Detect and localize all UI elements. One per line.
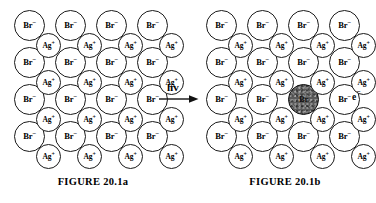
- ion-symbol: Br: [297, 132, 306, 141]
- ion-symbol: Br: [146, 95, 155, 104]
- ion-symbol: Ag: [358, 79, 367, 87]
- figure-caption-a: FIGURE 20.1a: [8, 176, 178, 187]
- ion-symbol: Ag: [317, 153, 326, 161]
- silver-ion: Ag+: [310, 107, 335, 132]
- ion-symbol: Br: [297, 58, 306, 67]
- ion-symbol: Ag: [276, 116, 285, 124]
- ion-symbol: Ag: [276, 79, 285, 87]
- ion-symbol: Br: [64, 58, 73, 67]
- ejected-electron-label: e−: [352, 92, 361, 102]
- ion-symbol: Ag: [43, 42, 52, 50]
- ion-symbol: Ag: [43, 116, 52, 124]
- ion-symbol: Br: [256, 132, 265, 141]
- silver-ion: Ag+: [228, 33, 253, 58]
- silver-ion: Ag+: [36, 33, 61, 58]
- figure-caption-b: FIGURE 20.1b: [200, 176, 370, 187]
- ion-symbol: Br: [297, 21, 306, 30]
- lattice-panel-b: Br−Br−Br−Br−Br−Br−Br−Br−Br−Br−BrBr−Br−Br…: [200, 0, 370, 168]
- silver-ion: Ag+: [118, 107, 143, 132]
- silver-ion: Ag+: [36, 107, 61, 132]
- silver-ion: Ag+: [269, 70, 294, 95]
- silver-ion: Ag+: [228, 107, 253, 132]
- silver-ion: Ag+: [77, 144, 102, 169]
- ion-symbol: Ag: [43, 79, 52, 87]
- silver-ion: Ag+: [36, 144, 61, 169]
- silver-ion: Ag+: [77, 70, 102, 95]
- reaction-arrow-icon: [159, 94, 199, 104]
- silver-ion: Ag+: [351, 33, 376, 58]
- ion-symbol: Ag: [358, 42, 367, 50]
- silver-ion: Ag+: [269, 144, 294, 169]
- ion-symbol: Br: [64, 132, 73, 141]
- ion-symbol: Br: [256, 95, 265, 104]
- ion-symbol: Ag: [317, 42, 326, 50]
- ion-symbol: Br: [215, 95, 224, 104]
- ion-symbol: Ag: [84, 79, 93, 87]
- silver-ion: Ag+: [77, 33, 102, 58]
- silver-ion: Ag+: [77, 107, 102, 132]
- silver-ion: Ag+: [118, 33, 143, 58]
- ion-symbol: Ag: [84, 116, 93, 124]
- ion-symbol: Br: [338, 58, 347, 67]
- ion-symbol: Ag: [358, 116, 367, 124]
- silver-ion: Ag+: [351, 107, 376, 132]
- ion-symbol: Br: [105, 95, 114, 104]
- silver-ion: Ag+: [269, 33, 294, 58]
- ion-symbol: Ag: [125, 42, 134, 50]
- ion-symbol: Br: [146, 21, 155, 30]
- ion-symbol: Ag: [317, 79, 326, 87]
- ion-symbol: Ag: [125, 116, 134, 124]
- silver-ion: Ag+: [36, 70, 61, 95]
- ion-symbol: Br: [64, 21, 73, 30]
- ion-symbol: Br: [146, 58, 155, 67]
- ion-symbol: Br: [23, 21, 32, 30]
- ion-symbol: Ag: [317, 116, 326, 124]
- silver-ion: Ag+: [159, 144, 184, 169]
- ion-symbol: Ag: [235, 153, 244, 161]
- ion-symbol: Ag: [276, 42, 285, 50]
- ion-symbol: Br: [105, 21, 114, 30]
- ion-symbol: Br: [256, 21, 265, 30]
- silver-ion: Ag+: [118, 144, 143, 169]
- ion-symbol: Br: [338, 95, 347, 104]
- ion-symbol: Ag: [84, 42, 93, 50]
- silver-ion: Ag+: [310, 144, 335, 169]
- ion-symbol: Ag: [235, 42, 244, 50]
- ion-symbol: Ag: [166, 42, 175, 50]
- ion-symbol: Br: [299, 95, 308, 104]
- lattice-panel-a: Br−Br−Br−Br−Br−Br−Br−Br−Br−Br−Br−Br−Br−B…: [8, 0, 178, 168]
- silver-ion: Ag+: [228, 70, 253, 95]
- ion-symbol: Br: [23, 132, 32, 141]
- ion-symbol: Br: [215, 132, 224, 141]
- ion-symbol: Br: [215, 58, 224, 67]
- silver-ion: Ag+: [159, 33, 184, 58]
- ion-symbol: Br: [338, 132, 347, 141]
- silver-ion: Ag+: [269, 107, 294, 132]
- ion-symbol: Br: [146, 132, 155, 141]
- ion-symbol: Br: [23, 95, 32, 104]
- ion-symbol: Br: [64, 95, 73, 104]
- ion-symbol: Br: [256, 58, 265, 67]
- ion-symbol: Ag: [125, 79, 134, 87]
- ion-symbol: Br: [215, 21, 224, 30]
- ion-symbol: Br: [105, 58, 114, 67]
- silver-ion: Ag+: [310, 33, 335, 58]
- ion-symbol: Ag: [276, 153, 285, 161]
- silver-ion: Ag+: [118, 70, 143, 95]
- ion-symbol: Ag: [235, 79, 244, 87]
- silver-ion: Ag+: [351, 144, 376, 169]
- ion-symbol: Br: [105, 132, 114, 141]
- silver-ion: Ag+: [310, 70, 335, 95]
- ion-symbol: Ag: [166, 116, 175, 124]
- silver-ion: Ag+: [228, 144, 253, 169]
- ion-symbol: Ag: [125, 153, 134, 161]
- ion-symbol: Ag: [43, 153, 52, 161]
- hv-photon-label: hv: [167, 81, 179, 93]
- ion-symbol: Br: [23, 58, 32, 67]
- ion-symbol: Ag: [84, 153, 93, 161]
- ion-symbol: Br: [338, 21, 347, 30]
- ion-symbol: Ag: [235, 116, 244, 124]
- electron-charge: −: [356, 87, 360, 96]
- ion-symbol: Ag: [358, 153, 367, 161]
